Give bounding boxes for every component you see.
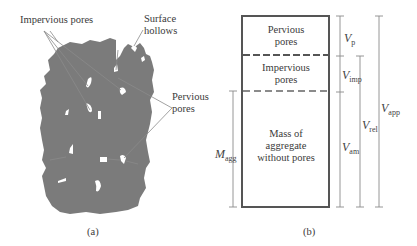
solid-mass-section-line2: aggregate <box>243 140 329 152</box>
v-app-label: Vapp <box>381 101 400 117</box>
solid-mass-section-line3: without pores <box>243 152 329 164</box>
impervious-pores-section-line1: Impervious <box>243 62 329 74</box>
m-agg-label: Magg <box>215 147 237 163</box>
pervious-pores-section-line1: Pervious <box>243 24 329 36</box>
impervious-pores-section-line2: pores <box>243 74 329 86</box>
solid-mass-section-line1: Mass of <box>243 128 329 140</box>
impervious-pores-label: Impervious pores <box>20 14 93 26</box>
surface-hollows-label-line1: Surface <box>144 13 176 25</box>
v-rel-label: Vrel <box>362 118 378 134</box>
pervious-pores-section-line2: pores <box>243 36 329 48</box>
v-p-label: Vp <box>344 31 355 47</box>
pervious-pores-label-line2: pores <box>172 103 195 115</box>
panel-b-caption: (b) <box>303 226 315 238</box>
v-am-label: Vam <box>342 140 359 156</box>
panel-a-caption: (a) <box>87 226 99 238</box>
v-imp-label: Vimp <box>342 68 362 84</box>
surface-hollows-label-line2: hollows <box>144 25 177 37</box>
pervious-pores-label-line1: Pervious <box>172 91 209 103</box>
